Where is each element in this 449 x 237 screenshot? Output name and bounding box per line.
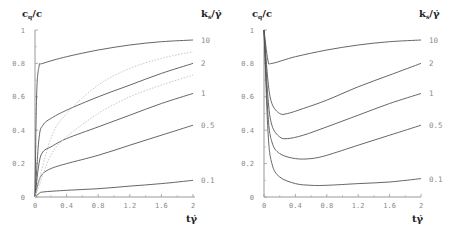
y-tick-label: 0.4 bbox=[12, 127, 25, 135]
y-tick-label: 1 bbox=[21, 27, 25, 35]
curve-label: 2 bbox=[429, 59, 434, 68]
right-x-ticks: 00.40.81.21.62 bbox=[262, 194, 423, 210]
right-y-axis-label: cq/c bbox=[252, 8, 272, 21]
x-tick-label: 1.6 bbox=[383, 202, 396, 210]
x-tick-label: 0.4 bbox=[60, 202, 73, 210]
y-tick-label: 0.6 bbox=[241, 93, 254, 101]
curve-label: 1 bbox=[429, 89, 434, 98]
series-line-10 bbox=[264, 30, 421, 64]
y-tick-label: 0.4 bbox=[241, 127, 254, 135]
x-tick-label: 1.2 bbox=[352, 202, 365, 210]
series-line-2 bbox=[35, 63, 193, 197]
right-x-axis-label: tγ̇ bbox=[412, 213, 424, 224]
left-y-ticks: 00.20.40.60.81 bbox=[12, 27, 38, 202]
left-y-axis-label: cq/c bbox=[22, 8, 42, 21]
series-line-dotted-lower bbox=[35, 75, 193, 197]
series-line-0.1 bbox=[264, 30, 421, 186]
y-tick-label: 0.2 bbox=[241, 160, 254, 168]
x-tick-label: 1.6 bbox=[155, 202, 168, 210]
curve-label: 0.5 bbox=[429, 121, 443, 130]
x-tick-label: 0.4 bbox=[289, 202, 302, 210]
y-tick-label: 0 bbox=[250, 194, 254, 202]
series-line-0.5 bbox=[35, 125, 193, 197]
x-tick-label: 0.8 bbox=[92, 202, 105, 210]
right-y-ticks: 00.20.40.60.81 bbox=[241, 27, 267, 202]
curve-label: 1 bbox=[201, 89, 206, 98]
x-tick-label: 2 bbox=[191, 202, 195, 210]
right-legend-title: ks/γ̇ bbox=[419, 8, 440, 20]
y-tick-label: 0 bbox=[21, 194, 25, 202]
series-line-0.5 bbox=[264, 30, 421, 159]
y-tick-label: 0.8 bbox=[12, 60, 25, 68]
x-tick-label: 2 bbox=[419, 202, 423, 210]
x-tick-label: 0.8 bbox=[320, 202, 333, 210]
left-curve-labels: 10210.50.1 bbox=[201, 36, 215, 185]
series-line-10 bbox=[35, 40, 193, 197]
series-line-2 bbox=[264, 30, 421, 114]
left-legend-title: ks/γ̇ bbox=[201, 8, 222, 20]
y-tick-label: 0.8 bbox=[241, 60, 254, 68]
right-series bbox=[264, 30, 421, 186]
x-tick-label: 0 bbox=[262, 202, 266, 210]
y-tick-label: 1 bbox=[250, 27, 254, 35]
right-curve-labels: 10210.50.1 bbox=[429, 36, 443, 184]
series-line-1 bbox=[264, 30, 421, 139]
y-tick-label: 0.2 bbox=[12, 160, 25, 168]
left-chart: cq/c ks/γ̇ 00.20.40.60.81 00.40.81.21.62… bbox=[12, 8, 222, 224]
series-line-dotted-upper bbox=[35, 52, 193, 197]
series-line-0.1 bbox=[35, 180, 193, 197]
curve-label: 0.1 bbox=[201, 176, 215, 185]
figure: cq/c ks/γ̇ 00.20.40.60.81 00.40.81.21.62… bbox=[0, 0, 449, 237]
x-tick-label: 0 bbox=[33, 202, 37, 210]
right-chart: cq/c ks/γ̇ 00.20.40.60.81 00.40.81.21.62… bbox=[241, 8, 442, 224]
curve-label: 0.1 bbox=[429, 175, 443, 184]
curve-label: 10 bbox=[429, 36, 439, 45]
left-x-ticks: 00.40.81.21.62 bbox=[33, 194, 195, 210]
series-line-1 bbox=[35, 94, 193, 198]
x-tick-label: 1.2 bbox=[123, 202, 136, 210]
y-tick-label: 0.6 bbox=[12, 93, 25, 101]
curve-label: 0.5 bbox=[201, 121, 215, 130]
curve-label: 2 bbox=[201, 59, 206, 68]
left-series bbox=[35, 40, 193, 197]
curve-label: 10 bbox=[201, 36, 211, 45]
left-x-axis-label: tγ̇ bbox=[186, 213, 198, 224]
